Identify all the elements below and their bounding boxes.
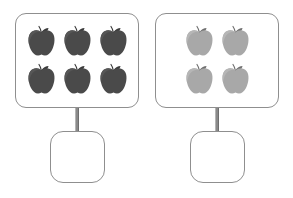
apple-row [27, 25, 128, 58]
connector-stem-right [215, 108, 219, 133]
apple-icon [99, 25, 128, 58]
apple-set-box-left [15, 13, 139, 108]
apple-icon [99, 63, 128, 96]
apple-row [27, 63, 128, 96]
apple-icon [63, 63, 92, 96]
apple-icon [27, 63, 56, 96]
apple-icon [185, 25, 214, 58]
apple-icon [221, 63, 250, 96]
connector-stem-left [75, 108, 79, 133]
apple-icon [63, 25, 92, 58]
apple-icon [27, 25, 56, 58]
counting-group-left [0, 0, 150, 198]
answer-box-right[interactable] [190, 131, 245, 183]
apple-icon [185, 63, 214, 96]
apple-grid-left [16, 14, 138, 107]
apple-row [185, 25, 250, 58]
answer-value-right[interactable] [191, 132, 244, 182]
apple-grid-right [156, 14, 278, 107]
answer-box-left[interactable] [50, 131, 105, 183]
counting-group-right [148, 0, 293, 198]
apple-icon [221, 25, 250, 58]
answer-value-left[interactable] [51, 132, 104, 182]
counting-worksheet [0, 0, 293, 198]
apple-set-box-right [155, 13, 279, 108]
apple-row [185, 63, 250, 96]
